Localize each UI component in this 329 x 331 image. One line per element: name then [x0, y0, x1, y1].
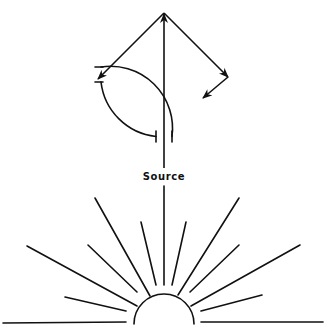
ray	[95, 198, 150, 296]
circle-arc-main	[101, 66, 173, 136]
ray	[65, 297, 126, 311]
ray	[3, 322, 126, 323]
right-reflected-arrow	[164, 13, 228, 77]
inner-reflected-arrow	[203, 77, 228, 98]
ray	[201, 295, 262, 311]
source-semicircle	[134, 294, 194, 324]
ray	[88, 245, 137, 292]
ray	[141, 222, 156, 285]
circle-arc-lower-left	[101, 82, 156, 137]
ray	[190, 245, 239, 292]
source-radiation-diagram	[0, 0, 329, 331]
source-group	[3, 186, 323, 324]
upper-circle-group	[95, 66, 173, 142]
ray	[178, 198, 239, 295]
arrows-group	[98, 13, 228, 168]
source-label: Source	[124, 170, 204, 184]
ray	[172, 222, 186, 285]
